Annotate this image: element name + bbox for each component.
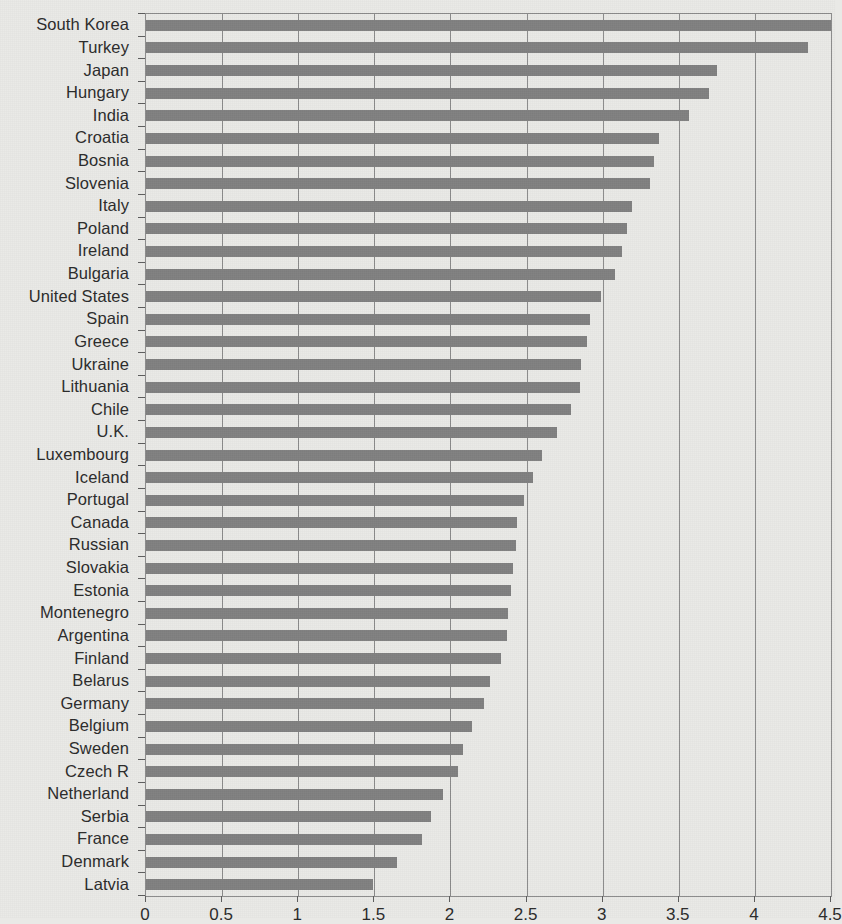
x-axis-tick [373, 896, 374, 902]
category-label: Latvia [84, 876, 129, 893]
category-label: Sweden [69, 740, 129, 757]
category-label: Serbia [81, 808, 129, 825]
bar [146, 133, 659, 144]
y-axis-tick [138, 533, 145, 534]
bar [146, 201, 632, 212]
x-axis-tick-label: 3.5 [666, 906, 690, 923]
y-axis-tick [138, 194, 145, 195]
x-axis-tick-label: 4.5 [818, 906, 842, 923]
category-label: Greece [74, 333, 129, 350]
category-label: Netherland [47, 785, 129, 802]
category-label: South Korea [36, 16, 129, 33]
x-axis-tick [297, 896, 298, 902]
y-axis-tick [138, 465, 145, 466]
category-label: Argentina [57, 627, 129, 644]
y-axis-tick [138, 307, 145, 308]
bar [146, 359, 581, 370]
x-axis-tick [145, 896, 146, 902]
category-label: Croatia [75, 129, 129, 146]
category-label: Estonia [73, 582, 129, 599]
x-axis-tick [754, 896, 755, 902]
category-label: Germany [60, 695, 129, 712]
bar [146, 291, 601, 302]
x-axis-tick-label: 2.5 [514, 906, 538, 923]
bar [146, 20, 831, 31]
category-label: Luxembourg [36, 446, 129, 463]
category-label: Spain [86, 310, 129, 327]
y-axis-tick [138, 126, 145, 127]
y-axis-tick [138, 330, 145, 331]
category-label: Turkey [79, 39, 129, 56]
y-axis-tick [138, 262, 145, 263]
y-axis-tick [138, 556, 145, 557]
bar [146, 65, 717, 76]
category-label: Canada [71, 514, 129, 531]
y-axis-tick [138, 239, 145, 240]
x-axis-tick-label: 0 [140, 906, 149, 923]
y-axis-tick [138, 36, 145, 37]
x-gridline [755, 14, 756, 896]
bar [146, 110, 689, 121]
category-label: Lithuania [61, 378, 129, 395]
bar [146, 585, 511, 596]
y-axis-tick [138, 601, 145, 602]
y-axis-tick [138, 443, 145, 444]
bar [146, 676, 490, 687]
x-axis-tick [678, 896, 679, 902]
y-axis-tick [138, 624, 145, 625]
x-axis-tick [449, 896, 450, 902]
bar [146, 336, 587, 347]
bar [146, 427, 557, 438]
y-axis-tick [138, 714, 145, 715]
x-gridline [679, 14, 680, 896]
bar [146, 223, 627, 234]
plot-area [145, 13, 832, 897]
y-axis-tick [138, 646, 145, 647]
bar [146, 495, 524, 506]
x-axis-tick [602, 896, 603, 902]
bar [146, 630, 507, 641]
category-label: Belarus [72, 672, 129, 689]
category-label: Japan [84, 62, 129, 79]
x-axis-tick [526, 896, 527, 902]
bar [146, 563, 513, 574]
category-label: Portugal [67, 491, 129, 508]
bar [146, 744, 463, 755]
y-axis-tick [138, 488, 145, 489]
y-axis-tick [138, 737, 145, 738]
bar [146, 88, 709, 99]
y-axis-tick [138, 217, 145, 218]
bar [146, 314, 590, 325]
category-label: Ireland [78, 242, 129, 259]
bar [146, 472, 533, 483]
bar [146, 42, 808, 53]
category-label: Bosnia [78, 152, 129, 169]
y-axis-tick [138, 420, 145, 421]
y-axis-tick [138, 669, 145, 670]
y-axis-tick [138, 895, 145, 896]
x-axis-tick [221, 896, 222, 902]
category-label: Poland [77, 220, 129, 237]
x-axis-tick [830, 896, 831, 902]
y-axis-tick [138, 171, 145, 172]
bar [146, 766, 458, 777]
y-axis-tick [138, 872, 145, 873]
category-label: Bulgaria [68, 265, 129, 282]
bar [146, 178, 650, 189]
category-label: U.K. [97, 423, 130, 440]
y-axis-tick [138, 81, 145, 82]
category-label: Slovenia [65, 175, 129, 192]
category-label: Czech R [65, 763, 129, 780]
bar [146, 721, 472, 732]
y-axis-tick [138, 13, 145, 14]
bar [146, 404, 571, 415]
bar [146, 834, 422, 845]
y-axis-tick [138, 691, 145, 692]
bar [146, 653, 501, 664]
category-label: Finland [74, 650, 129, 667]
y-axis-tick [138, 805, 145, 806]
category-label: Ukraine [71, 356, 129, 373]
bar [146, 540, 516, 551]
bar [146, 608, 508, 619]
category-label: France [77, 830, 129, 847]
